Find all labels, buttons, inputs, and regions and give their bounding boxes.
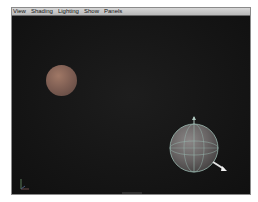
menu-view[interactable]: View [13,8,26,15]
menu-lighting[interactable]: Lighting [58,8,79,15]
camera-label [122,192,142,194]
large-sphere-selected[interactable] [169,116,227,174]
viewport-panel: View Shading Lighting Show Panels [11,7,251,195]
menu-panels[interactable]: Panels [104,8,122,15]
menu-shading[interactable]: Shading [31,8,53,15]
panel-menubar: View Shading Lighting Show Panels [12,8,250,16]
3d-viewport[interactable] [12,16,250,194]
axis-indicator-icon [18,177,32,191]
small-sphere[interactable] [46,65,77,96]
menu-show[interactable]: Show [84,8,99,15]
